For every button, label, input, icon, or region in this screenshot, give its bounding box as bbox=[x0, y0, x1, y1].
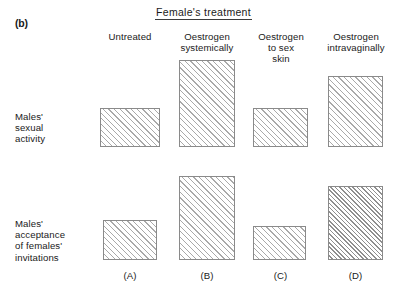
column-header-oestrogen-intravaginally: Oestrogen intravaginally bbox=[310, 31, 402, 53]
column-header-line: skin bbox=[239, 53, 323, 64]
row-label-line: invitations bbox=[15, 252, 65, 263]
bar-row1-untreated bbox=[100, 108, 160, 147]
row-label-males-acceptance-of-females-invitations: Males' acceptance of females' invitation… bbox=[15, 218, 65, 263]
bar-row2-oestrogen-intravaginally bbox=[328, 186, 383, 260]
figure-title: Female's treatment bbox=[0, 6, 407, 20]
bar-row1-oestrogen-intravaginally bbox=[328, 76, 383, 147]
group-letter-d: (D) bbox=[328, 270, 383, 281]
bar-row1-oestrogen-to-sex-skin bbox=[253, 108, 308, 147]
column-header-line: intravaginally bbox=[310, 42, 402, 53]
column-header-line: Oestrogen bbox=[310, 31, 402, 42]
row-label-line: Males' bbox=[15, 111, 45, 122]
bar-row2-untreated bbox=[103, 220, 157, 260]
bar-row2-oestrogen-systemically bbox=[179, 176, 235, 260]
group-letter-c: (C) bbox=[253, 270, 308, 281]
group-letter-b: (B) bbox=[179, 270, 235, 281]
row-label-line: sexual bbox=[15, 122, 45, 133]
bar-row2-oestrogen-to-sex-skin bbox=[253, 226, 306, 260]
row-label-line: activity bbox=[15, 133, 45, 144]
group-letter-a: (A) bbox=[100, 270, 160, 281]
row-label-males-sexual-activity: Males' sexual activity bbox=[15, 111, 45, 145]
figure-panel-b: (b) Female's treatment Untreated Oestrog… bbox=[0, 0, 407, 300]
figure-title-text: Female's treatment bbox=[155, 6, 252, 20]
row-label-line: Males' bbox=[15, 218, 65, 229]
row-label-line: acceptance bbox=[15, 229, 65, 240]
row-label-line: of females' bbox=[15, 240, 65, 251]
bar-row1-oestrogen-systemically bbox=[179, 60, 235, 147]
